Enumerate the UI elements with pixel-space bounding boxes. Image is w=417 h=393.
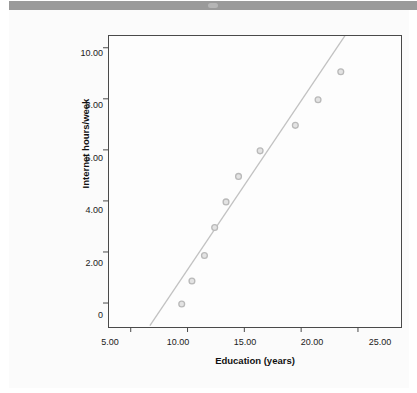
data-point: [315, 97, 321, 103]
fit-line: [150, 36, 347, 326]
data-point: [338, 69, 344, 75]
y-axis-title: Internet hours/week: [80, 64, 91, 224]
data-point: [189, 278, 195, 284]
window-title-bar: [9, 1, 417, 10]
chart-figure: 10.00 8.00 6.00 4.00 2.00 0 5.00 10.00 1…: [9, 10, 409, 388]
data-point: [223, 199, 229, 205]
title-bar-handle: [208, 3, 218, 8]
x-tick-label-25: 25.00: [360, 337, 400, 347]
y-tick-label-10: 10.00: [53, 48, 103, 58]
data-point: [257, 148, 263, 154]
y-tick-label-2: 2.00: [53, 258, 103, 268]
y-tick-label-4: 4.00: [53, 205, 103, 215]
plot-area: [108, 35, 402, 328]
x-tick-label-20: 20.00: [292, 337, 332, 347]
x-tick-label-15: 15.00: [225, 337, 265, 347]
x-axis-title: Education (years): [108, 355, 402, 366]
screenshot-root: 10.00 8.00 6.00 4.00 2.00 0 5.00 10.00 1…: [0, 0, 417, 393]
data-point: [212, 225, 218, 231]
y-tick-label-6: 6.00: [53, 153, 103, 163]
scatter-points: [179, 69, 344, 307]
y-tick-label-8: 8.00: [53, 100, 103, 110]
data-point: [202, 253, 208, 259]
y-tick-label-0: 0: [53, 310, 103, 320]
data-point: [179, 301, 185, 307]
regression-line: [150, 36, 347, 326]
data-point: [236, 173, 242, 179]
data-point: [292, 122, 298, 128]
x-tick-label-5: 5.00: [90, 337, 130, 347]
x-tick-label-10: 10.00: [158, 337, 198, 347]
plot-canvas: [109, 36, 401, 327]
